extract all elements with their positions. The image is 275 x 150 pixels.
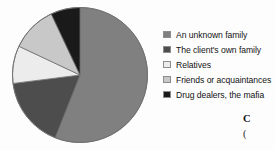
legend-item-friends-or-acquaintances: Friends or acquaintances — [163, 72, 275, 87]
legend-swatch-friends-or-acquaintances — [163, 76, 171, 83]
pie-chart-svg — [11, 6, 149, 144]
legend-swatch-relatives — [163, 61, 171, 68]
legend-label-the-clients-own-family: The client's own family — [176, 45, 261, 55]
legend-item-relatives: Relatives — [163, 57, 275, 72]
legend-label-friends-or-acquaintances: Friends or acquaintances — [176, 75, 271, 85]
legend-item-the-clients-own-family: The client's own family — [163, 42, 275, 57]
figure-caption-cropped: C ( — [243, 113, 275, 150]
legend-item-an-unknown-family: An unknown family — [163, 27, 275, 42]
pie-slice-group — [12, 8, 147, 143]
legend-label-relatives: Relatives — [176, 60, 211, 70]
legend-label-an-unknown-family: An unknown family — [176, 30, 247, 40]
legend-swatch-the-clients-own-family — [163, 46, 171, 53]
legend-swatch-drug-dealers-the-mafia — [163, 91, 171, 98]
caption-line-2: ( — [243, 128, 247, 139]
pie-chart-plot-area — [11, 6, 149, 144]
chart-legend: An unknown family The client's own famil… — [163, 27, 275, 102]
caption-line-1: C — [243, 113, 251, 124]
pie-chart-figure: An unknown family The client's own famil… — [0, 0, 275, 150]
legend-item-drug-dealers-the-mafia: Drug dealers, the mafia — [163, 87, 275, 102]
legend-swatch-an-unknown-family — [163, 31, 171, 38]
legend-label-drug-dealers-the-mafia: Drug dealers, the mafia — [176, 90, 264, 100]
